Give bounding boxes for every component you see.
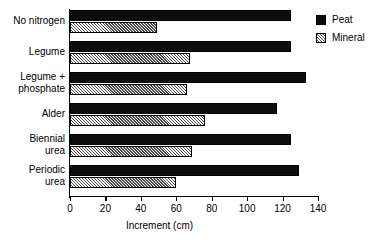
bar-mineral — [70, 22, 157, 33]
x-tick-mark — [141, 197, 142, 201]
x-tick-mark — [318, 197, 319, 201]
x-tick-label: 100 — [232, 203, 262, 214]
category-label: Legume — [29, 46, 65, 58]
bar-peat — [70, 72, 306, 83]
bar-mineral — [70, 53, 190, 64]
x-tick-mark — [212, 197, 213, 201]
x-tick-label: 80 — [197, 203, 227, 214]
x-axis-title: Increment (cm) — [0, 220, 381, 231]
x-axis-title-label: Increment (cm) — [126, 220, 193, 231]
bar-group — [70, 41, 318, 64]
x-tick-label: 40 — [126, 203, 156, 214]
x-tick-mark — [283, 197, 284, 201]
x-tick-mark — [247, 197, 248, 201]
bar-mineral — [70, 146, 192, 157]
legend-swatch-mineral-icon — [316, 33, 326, 43]
bar-peat — [70, 165, 299, 176]
legend-label-mineral: Mineral — [332, 32, 365, 43]
legend-item-mineral: Mineral — [316, 30, 365, 45]
bar-mineral — [70, 177, 176, 188]
bar-group — [70, 165, 318, 188]
bar-group — [70, 103, 318, 126]
legend-item-peat: Peat — [316, 12, 365, 27]
x-tick-label: 120 — [268, 203, 298, 214]
x-tick-label: 20 — [90, 203, 120, 214]
bar-mineral — [70, 115, 205, 126]
category-label: Biennial urea — [29, 133, 65, 156]
bar-peat — [70, 41, 291, 52]
chart-legend: Peat Mineral — [316, 12, 365, 48]
bar-peat — [70, 10, 291, 21]
category-label: Periodic urea — [29, 164, 65, 187]
x-tick-mark — [176, 197, 177, 201]
plot-area — [70, 10, 318, 196]
bar-peat — [70, 103, 277, 114]
x-tick-mark — [70, 197, 71, 201]
bar-group — [70, 10, 318, 33]
x-tick-label: 140 — [303, 203, 333, 214]
bar-group — [70, 134, 318, 157]
category-label: Alder — [42, 108, 65, 120]
bar-chart-figure: No nitrogenLegumeLegume + phosphateAlder… — [0, 0, 381, 248]
category-label: Legume + phosphate — [18, 71, 65, 94]
x-tick-label: 0 — [55, 203, 85, 214]
bar-group — [70, 72, 318, 95]
x-tick-mark — [105, 197, 106, 201]
legend-label-peat: Peat — [332, 14, 353, 25]
bar-mineral — [70, 84, 187, 95]
bar-peat — [70, 134, 291, 145]
category-label: No nitrogen — [13, 15, 65, 27]
x-tick-label: 60 — [161, 203, 191, 214]
legend-swatch-peat-icon — [316, 15, 326, 25]
